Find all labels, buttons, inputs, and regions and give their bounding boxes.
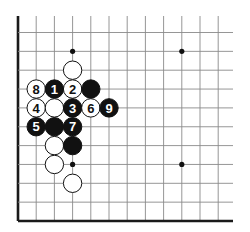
- stone-circle: [45, 155, 63, 173]
- move-number-label: 1: [51, 82, 58, 97]
- stone-circle: [45, 99, 63, 117]
- white-stone-2: 2: [63, 80, 81, 98]
- stone-circle: [82, 80, 100, 98]
- stone-circle: [45, 136, 63, 154]
- star-point-icon: [179, 162, 184, 167]
- black-stone-1: 1: [45, 80, 63, 98]
- black-stone: [45, 118, 63, 136]
- move-number-label: 8: [33, 82, 40, 97]
- black-stone-9: 9: [100, 99, 118, 117]
- stone-circle: [63, 136, 81, 154]
- black-stone: [82, 80, 100, 98]
- star-point-icon: [70, 162, 75, 167]
- white-stone: [45, 136, 63, 154]
- black-stone: [63, 136, 81, 154]
- stone-circle: [63, 61, 81, 79]
- white-stone-4: 4: [27, 99, 45, 117]
- white-stone: [63, 174, 81, 192]
- white-stone-6: 6: [82, 99, 100, 117]
- move-number-label: 5: [33, 119, 40, 134]
- white-stone: [63, 61, 81, 79]
- stone-circle: [63, 174, 81, 192]
- white-stone: [45, 155, 63, 173]
- white-stone-8: 8: [27, 80, 45, 98]
- star-point-icon: [70, 49, 75, 54]
- black-stone-3: 3: [63, 99, 81, 117]
- move-number-label: 4: [33, 101, 41, 116]
- go-board-diagram: 812436957: [0, 0, 250, 232]
- black-stone-7: 7: [63, 118, 81, 136]
- black-stone-5: 5: [27, 118, 45, 136]
- star-point-icon: [179, 49, 184, 54]
- white-stone: [45, 99, 63, 117]
- move-number-label: 9: [105, 101, 112, 116]
- move-number-label: 6: [87, 101, 94, 116]
- move-number-label: 3: [69, 101, 76, 116]
- move-number-label: 2: [69, 82, 76, 97]
- stone-circle: [45, 118, 63, 136]
- move-number-label: 7: [69, 119, 76, 134]
